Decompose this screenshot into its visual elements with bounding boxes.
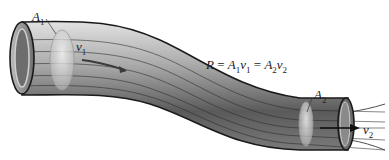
cross-section-a2 [299,102,313,146]
cross-section-a1 [50,30,74,90]
label-a1: A1 [32,10,44,27]
v2-arrow [350,124,360,132]
continuity-equation: R = A1v1 = A2v2 [206,58,287,75]
tube-diagram [0,0,389,160]
label-v1: v1 [76,40,86,57]
label-a2: A2 [314,88,326,105]
label-v2: v2 [363,123,373,140]
